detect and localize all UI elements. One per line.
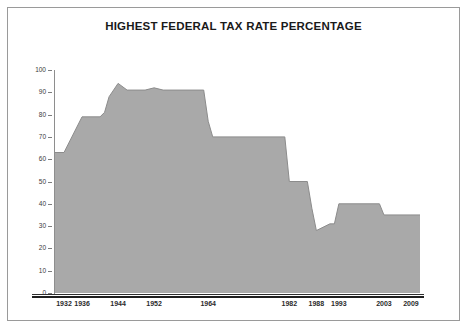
x-tick-label-2003: 2003: [376, 300, 392, 307]
x-tick-label-1988: 1988: [309, 300, 325, 307]
y-tick-label-40: 40: [39, 201, 46, 208]
x-axis-line-upper: [32, 294, 424, 295]
y-tick-mark-60: [48, 159, 52, 160]
y-tick-label-50: 50: [39, 178, 46, 185]
chart-figure: HIGHEST FEDERAL TAX RATE PERCENTAGE 0102…: [0, 0, 467, 328]
x-tick-label-1944: 1944: [110, 300, 126, 307]
y-tick-label-20: 20: [39, 245, 46, 252]
y-tick-label-100: 100: [35, 67, 46, 74]
y-tick-mark-90: [48, 92, 52, 93]
y-tick-mark-40: [48, 204, 52, 205]
y-tick-mark-100: [48, 70, 52, 71]
x-tick-label-1964: 1964: [200, 300, 216, 307]
y-tick-mark-30: [48, 226, 52, 227]
plot-area: [55, 70, 420, 293]
area-series-svg: [55, 70, 420, 293]
x-tick-label-2009: 2009: [403, 300, 419, 307]
x-tick-label-1936: 1936: [74, 300, 90, 307]
x-tick-label-1993: 1993: [331, 300, 347, 307]
y-tick-label-90: 90: [39, 89, 46, 96]
chart-title: HIGHEST FEDERAL TAX RATE PERCENTAGE: [0, 20, 467, 32]
y-tick-mark-70: [48, 137, 52, 138]
y-tick-label-80: 80: [39, 111, 46, 118]
x-tick-label-1952: 1952: [146, 300, 162, 307]
x-tick-label-1982: 1982: [282, 300, 298, 307]
y-tick-mark-50: [48, 182, 52, 183]
y-tick-label-70: 70: [39, 134, 46, 141]
y-tick-mark-80: [48, 115, 52, 116]
y-tick-mark-10: [48, 271, 52, 272]
y-tick-label-30: 30: [39, 223, 46, 230]
y-tick-label-60: 60: [39, 156, 46, 163]
y-tick-label-10: 10: [39, 267, 46, 274]
area-series-fill: [55, 83, 420, 293]
x-axis: 1932193619441952196419821988199320032009: [0, 300, 467, 316]
x-tick-label-1932: 1932: [56, 300, 72, 307]
y-tick-mark-20: [48, 248, 52, 249]
x-axis-line-lower: [32, 296, 424, 298]
y-axis: 0102030405060708090100: [0, 70, 55, 293]
